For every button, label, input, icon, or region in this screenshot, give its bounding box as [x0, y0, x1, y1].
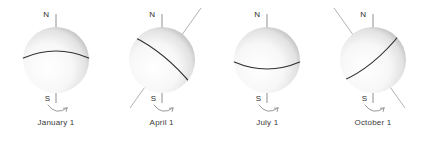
north-pole-label-january: N: [43, 10, 49, 19]
globe-cell-july: N S July 1: [215, 0, 319, 143]
globe-july: N S: [215, 0, 319, 120]
south-pole-label-january: S: [45, 94, 50, 103]
sphere-body-april: [129, 27, 195, 93]
sphere-body-january: [23, 27, 89, 93]
globe-cell-april: N S April 1: [110, 0, 214, 143]
globe-cell-october: N S October 1: [321, 0, 425, 143]
south-pole-label-october: S: [362, 94, 367, 103]
south-pole-label-july: S: [256, 94, 261, 103]
caption-april: April 1: [110, 118, 214, 127]
north-pole-label-october: N: [360, 10, 366, 19]
sphere-body-july: [234, 27, 300, 93]
globe-cell-january: N S January 1: [4, 0, 108, 143]
globe-october: N S: [321, 0, 425, 120]
globe-april: N S: [110, 0, 214, 120]
sphere-body-october: [340, 27, 406, 93]
seasonal-globes-diagram: N S January 1: [0, 0, 429, 143]
caption-october: October 1: [321, 118, 425, 127]
caption-january: January 1: [4, 118, 108, 127]
south-pole-label-april: S: [150, 94, 155, 103]
globe-january: N S: [4, 0, 108, 120]
north-pole-label-april: N: [149, 10, 155, 19]
caption-july: July 1: [215, 118, 319, 127]
north-pole-label-july: N: [255, 10, 261, 19]
